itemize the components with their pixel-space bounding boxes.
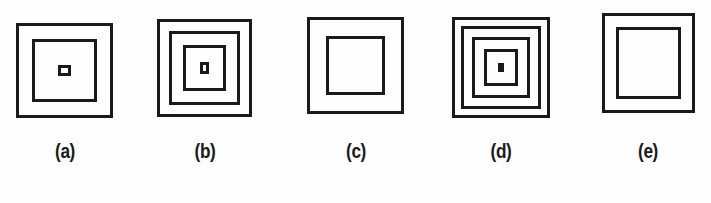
square-ring-2 bbox=[34, 41, 96, 101]
figure-a bbox=[16, 23, 113, 118]
square-ring-5 bbox=[500, 65, 503, 71]
figure-plate: (a)(b)(c)(d)(e) bbox=[0, 0, 711, 203]
square-ring-2 bbox=[171, 33, 239, 104]
figure-b bbox=[157, 19, 252, 117]
nested-squares-5-icon bbox=[452, 17, 550, 118]
square-ring-2 bbox=[618, 29, 680, 98]
square-ring-1 bbox=[309, 19, 403, 113]
square-ring-1 bbox=[159, 21, 251, 116]
square-ring-4 bbox=[202, 64, 208, 73]
square-ring-2 bbox=[328, 38, 384, 94]
nested-squares-3-icon bbox=[602, 13, 695, 113]
figure-c bbox=[307, 17, 404, 114]
figure-d-label: (d) bbox=[479, 140, 523, 161]
nested-squares-3-icon bbox=[16, 23, 113, 118]
figure-e-label: (e) bbox=[626, 140, 670, 161]
square-ring-1 bbox=[18, 25, 112, 117]
square-ring-3 bbox=[185, 47, 225, 90]
figure-c-label: (c) bbox=[334, 140, 378, 161]
figure-a-label: (a) bbox=[43, 140, 87, 161]
figure-e bbox=[602, 13, 695, 113]
nested-squares-4-icon bbox=[157, 19, 252, 117]
figure-d bbox=[452, 17, 550, 118]
figure-b-label: (b) bbox=[183, 140, 227, 161]
nested-squares-3-icon bbox=[307, 17, 404, 114]
square-ring-3 bbox=[60, 67, 70, 75]
